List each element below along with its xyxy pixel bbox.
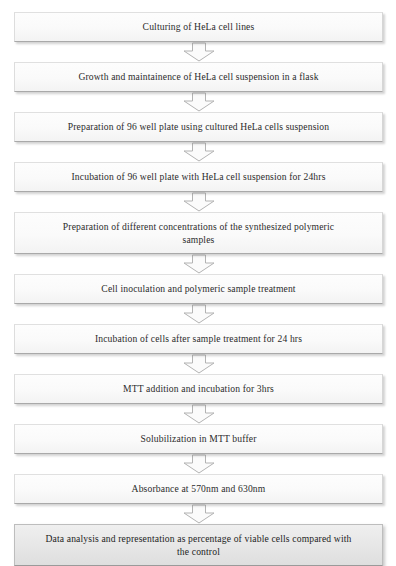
flow-step-label: Data analysis and representation as perc… [45, 532, 351, 559]
flow-step-label: Preparation of different concentrations … [63, 220, 334, 247]
down-arrow-icon [182, 42, 216, 62]
flow-connector-7 [14, 354, 383, 374]
flow-step-11: Data analysis and representation as perc… [14, 524, 383, 566]
flow-step-9: Solubilization in MTT buffer [14, 424, 383, 454]
flow-connector-9 [14, 454, 383, 474]
flow-step-label: Absorbance at 570nm and 630nm [132, 482, 266, 496]
down-arrow-icon [182, 304, 216, 324]
flow-step-4: Incubation of 96 well plate with HeLa ce… [14, 162, 383, 192]
flow-step-6: Cell inoculation and polymeric sample tr… [14, 274, 383, 304]
flow-step-label: Solubilization in MTT buffer [140, 432, 256, 446]
flow-connector-8 [14, 404, 383, 424]
flow-step-label: Preparation of 96 well plate using cultu… [68, 120, 330, 134]
flow-step-10: Absorbance at 570nm and 630nm [14, 474, 383, 504]
flow-step-label: Incubation of 96 well plate with HeLa ce… [71, 170, 325, 184]
down-arrow-icon [182, 354, 216, 374]
flow-step-7: Incubation of cells after sample treatme… [14, 324, 383, 354]
flow-step-label: Cell inoculation and polymeric sample tr… [101, 282, 295, 296]
flow-step-label: MTT addition and incubation for 3hrs [123, 382, 274, 396]
down-arrow-icon [182, 254, 216, 274]
flow-step-2: Growth and maintainence of HeLa cell sus… [14, 62, 383, 92]
flow-step-label: Growth and maintainence of HeLa cell sus… [78, 70, 318, 84]
flow-connector-5 [14, 254, 383, 274]
flow-connector-4 [14, 192, 383, 212]
flow-connector-1 [14, 42, 383, 62]
flow-step-label: Incubation of cells after sample treatme… [95, 332, 302, 346]
flow-connector-2 [14, 92, 383, 112]
flow-step-5: Preparation of different concentrations … [14, 212, 383, 254]
down-arrow-icon [182, 404, 216, 424]
flow-step-8: MTT addition and incubation for 3hrs [14, 374, 383, 404]
flow-connector-10 [14, 504, 383, 524]
down-arrow-icon [182, 454, 216, 474]
flowchart-step-stack: Culturing of HeLa cell lines Growth and … [14, 12, 383, 566]
flow-step-label: Culturing of HeLa cell lines [143, 20, 255, 34]
down-arrow-icon [182, 504, 216, 524]
flow-connector-6 [14, 304, 383, 324]
down-arrow-icon [182, 92, 216, 112]
flow-step-3: Preparation of 96 well plate using cultu… [14, 112, 383, 142]
flow-connector-3 [14, 142, 383, 162]
flow-step-1: Culturing of HeLa cell lines [14, 12, 383, 42]
down-arrow-icon [182, 142, 216, 162]
down-arrow-icon [182, 192, 216, 212]
